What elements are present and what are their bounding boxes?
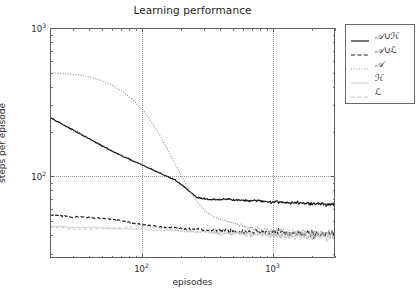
x-tick-label: 103 (265, 262, 280, 274)
x-tick-label: 102 (134, 262, 149, 274)
legend-entry[interactable]: 𝒜 (350, 57, 411, 71)
chart-figure: Learning performance steps per episode e… (0, 0, 419, 294)
x-tick (335, 256, 336, 259)
y-tick-label: 103 (18, 22, 46, 34)
x-axis-label: episodes (50, 277, 335, 287)
legend-entry[interactable]: ℋ (350, 71, 411, 85)
legend-label: 𝒜∪ℒ (375, 45, 397, 56)
chart-title: Learning performance (50, 4, 335, 16)
legend-entry[interactable]: 𝒜∪ℋ (350, 29, 411, 43)
y-tick-label: 102 (18, 170, 46, 182)
legend-entry[interactable]: ℒ (350, 85, 411, 99)
x-tick (335, 28, 336, 31)
legend-line-sample (350, 73, 370, 83)
legend-entry[interactable]: 𝒜∪ℒ (350, 43, 411, 57)
y-axis-label: steps per episode (0, 103, 7, 183)
plot-axes (50, 28, 335, 258)
chart-legend: 𝒜∪ℋ𝒜∪ℒ𝒜ℋℒ (345, 24, 415, 104)
legend-line-sample (350, 31, 370, 41)
axes-frame (50, 28, 335, 258)
legend-line-sample (350, 59, 370, 69)
legend-label: 𝒜∪ℋ (375, 31, 399, 42)
legend-line-sample (350, 45, 370, 55)
legend-label: ℒ (375, 87, 381, 97)
legend-line-sample (350, 87, 370, 97)
legend-label: 𝒜 (375, 59, 384, 70)
legend-label: ℋ (375, 73, 384, 83)
